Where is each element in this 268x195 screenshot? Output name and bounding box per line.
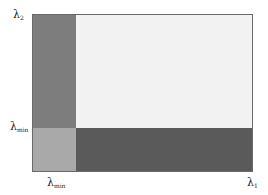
bottom-strip-region: [76, 128, 252, 171]
eigenvalue-plane-plot: [32, 14, 253, 172]
x-axis-label: λ1: [247, 177, 258, 189]
y-axis-label: λ2: [13, 9, 24, 21]
corner-region: [33, 128, 76, 171]
y-threshold-label: λmin: [10, 121, 28, 133]
main-region: [76, 15, 252, 128]
left-strip-region: [33, 15, 76, 128]
x-threshold-label: λmin: [47, 177, 65, 189]
